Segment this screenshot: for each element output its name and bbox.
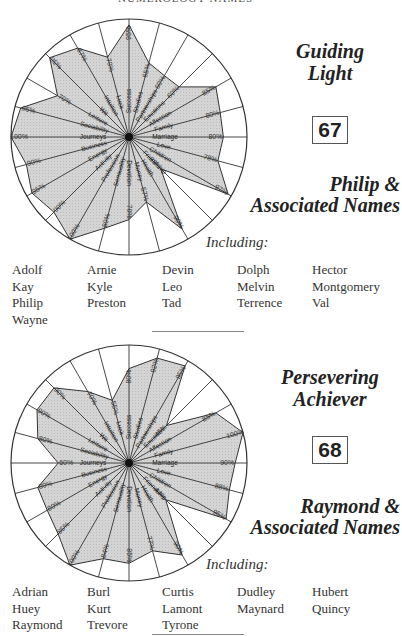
value-label: 80%	[125, 370, 132, 384]
category-label: Journeys	[80, 459, 107, 467]
personality-title-line1: Persevering	[258, 366, 402, 388]
personality-title-line2: Achiever	[258, 388, 402, 410]
value-label: 70%	[126, 205, 133, 219]
name-item: Montgomery	[312, 279, 402, 296]
category-label: Marriage	[152, 133, 178, 141]
category-label: Devotion	[126, 160, 133, 186]
associated-label: Associated Names	[251, 195, 400, 216]
section-divider	[152, 634, 244, 635]
name-item: Philip	[12, 295, 87, 312]
personality-number: 68	[312, 436, 347, 464]
cropped-page-header: NUMEROLOGY NAMES	[118, 0, 283, 4]
name-item: Melvin	[237, 279, 312, 296]
associated-names-heading: Raymond & Associated Names	[251, 496, 400, 538]
name-item: Terrence	[237, 295, 312, 312]
page-header-text: NUMEROLOGY NAMES	[118, 0, 283, 4]
personality-title-line2: Light	[258, 62, 402, 84]
including-label: Including:	[206, 234, 268, 251]
name-item: Hector	[312, 262, 402, 279]
name-item: Wayne	[12, 312, 87, 329]
value-label: 85%	[126, 548, 133, 562]
name-item: Hubert	[312, 584, 402, 601]
personality-title-block: Guiding Light	[258, 40, 402, 84]
name-item: Dolph	[237, 262, 312, 279]
name-item: Val	[312, 295, 402, 312]
name-item: Huey	[12, 601, 87, 618]
name-item: Arnie	[87, 262, 162, 279]
name-item: Leo	[162, 279, 237, 296]
name-item: Preston	[87, 295, 162, 312]
name-item: Kurt	[87, 601, 162, 618]
name-item: Quincy	[312, 601, 402, 618]
number-box: 68	[258, 436, 402, 464]
value-label: 95%	[125, 26, 132, 40]
category-label: Success	[125, 88, 132, 113]
value-label: 90%	[220, 459, 234, 466]
names-list: AdolfArnieDevinDolphHectorKayKyleLeoMelv…	[12, 262, 402, 328]
name-item: Kay	[12, 279, 87, 296]
number-box: 67	[258, 116, 402, 144]
radar-chart-svg: 80%Success92%Studies95%Partnerships45%Em…	[0, 334, 260, 590]
category-label: Devotion	[126, 486, 133, 512]
category-label: Journeys	[80, 133, 107, 141]
value-label: 80%	[208, 133, 222, 140]
name-item: Raymond	[12, 617, 87, 634]
name-item: Devin	[162, 262, 237, 279]
section-divider	[152, 331, 244, 332]
name-item: Tad	[162, 295, 237, 312]
name-item: Burl	[87, 584, 162, 601]
associated-names-heading: Philip & Associated Names	[251, 174, 400, 216]
personality-number: 67	[312, 116, 347, 144]
name-item: Kyle	[87, 279, 162, 296]
primary-name: Raymond &	[251, 496, 400, 517]
value-label: 100%	[10, 133, 28, 140]
category-label: Marriage	[152, 459, 178, 467]
radar-chart-svg: 95%Success65%Studies60%Partnerships60%Em…	[0, 8, 260, 264]
personality-title-line1: Guiding	[258, 40, 402, 62]
radar-chart-guiding-light: 95%Success65%Studies60%Partnerships60%Em…	[0, 8, 260, 264]
name-item: Tyrone	[162, 617, 237, 634]
name-item: Trevore	[87, 617, 162, 634]
primary-name: Philip &	[251, 174, 400, 195]
value-label: 60%	[59, 459, 73, 466]
radar-chart-persevering-achiever: 80%Success92%Studies95%Partnerships45%Em…	[0, 334, 260, 590]
personality-title-block: Persevering Achiever	[258, 366, 402, 410]
name-item: Adrian	[12, 584, 87, 601]
names-list: AdrianBurlCurtisDudleyHubertHueyKurtLamo…	[12, 584, 402, 634]
name-item: Maynard	[237, 601, 312, 618]
including-label: Including:	[206, 556, 268, 573]
name-item: Curtis	[162, 584, 237, 601]
name-item: Dudley	[237, 584, 312, 601]
name-item: Adolf	[12, 262, 87, 279]
associated-label: Associated Names	[251, 517, 400, 538]
name-item: Lamont	[162, 601, 237, 618]
category-label: Success	[125, 414, 132, 439]
